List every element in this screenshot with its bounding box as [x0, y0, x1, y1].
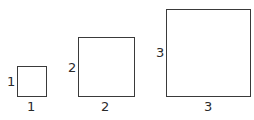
square-1-bottom-label: 1	[27, 100, 35, 113]
square-1	[17, 66, 47, 97]
square-1-side-label: 1	[7, 75, 15, 88]
square-2-side-label: 2	[68, 61, 76, 74]
square-3-side-label: 3	[156, 46, 164, 59]
square-3	[166, 9, 251, 97]
square-3-bottom-label: 3	[204, 100, 212, 113]
square-2-bottom-label: 2	[101, 100, 109, 113]
square-2	[78, 37, 135, 97]
